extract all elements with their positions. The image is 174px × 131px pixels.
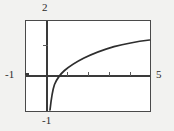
y-axis-line bbox=[46, 21, 48, 111]
plot-frame bbox=[25, 20, 151, 112]
x-axis-tick-3 bbox=[109, 72, 110, 76]
y-axis-tick-1 bbox=[43, 45, 48, 46]
x-axis-tick-2 bbox=[88, 72, 89, 76]
graph-screenshot: 2 -1 5 -1 bbox=[0, 0, 174, 131]
x-axis-tick-1 bbox=[67, 72, 68, 76]
left-edge-tick bbox=[25, 73, 29, 75]
x-axis-min-label: -1 bbox=[5, 69, 14, 80]
y-axis-min-label: -1 bbox=[42, 115, 51, 126]
y-axis-max-label: 2 bbox=[42, 2, 48, 13]
x-axis-tick-4 bbox=[130, 72, 131, 76]
x-axis-max-label: 5 bbox=[156, 69, 162, 80]
